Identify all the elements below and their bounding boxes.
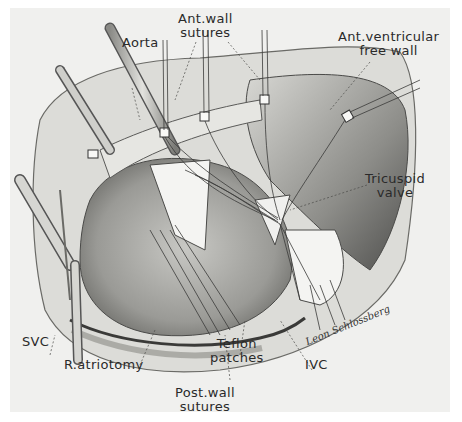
label-tricuspid-line1: Tricuspid [365, 172, 425, 186]
label-ant-ventricular-free-wall: Ant.ventricular free wall [338, 30, 439, 58]
label-ant-wall-sutures: Ant.wall sutures [178, 12, 233, 40]
label-post-wall-sutures: Post.wall sutures [175, 386, 235, 414]
label-tricuspid-valve: Tricuspid valve [365, 172, 425, 200]
label-r-atriotomy: R.atriotomy [64, 358, 143, 372]
label-tricuspid-line2: valve [365, 186, 425, 200]
label-ant-ventricular-line2: free wall [338, 44, 439, 58]
surgical-illustration: Aorta Ant.wall sutures Ant.ventricular f… [0, 0, 462, 422]
label-svc: SVC [22, 335, 49, 349]
label-teflon-patches: Teflon patches [210, 337, 264, 365]
label-post-wall-line2: sutures [175, 400, 235, 414]
label-ant-wall-sutures-line1: Ant.wall [178, 12, 233, 26]
label-teflon-line1: Teflon [210, 337, 264, 351]
label-teflon-line2: patches [210, 351, 264, 365]
label-aorta: Aorta [122, 36, 159, 50]
label-ivc: IVC [305, 358, 328, 372]
label-ant-wall-sutures-line2: sutures [178, 26, 233, 40]
label-post-wall-line1: Post.wall [175, 386, 235, 400]
label-ant-ventricular-line1: Ant.ventricular [338, 30, 439, 44]
